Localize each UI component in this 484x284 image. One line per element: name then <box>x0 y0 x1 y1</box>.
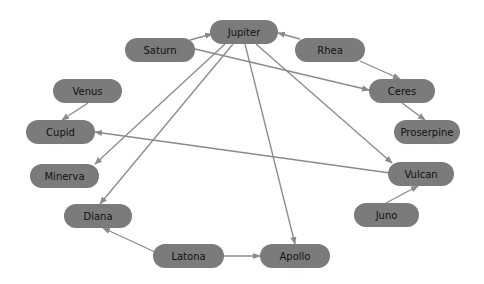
node-apollo: Apollo <box>260 244 330 268</box>
edge-venus-to-cupid <box>62 103 88 120</box>
edge-ceres-to-proserpine <box>402 103 425 120</box>
node-label: Ceres <box>388 86 416 97</box>
node-label: Jupiter <box>228 27 261 38</box>
edge-juno-to-vulcan <box>386 186 418 203</box>
node-label: Vulcan <box>404 169 437 180</box>
node-venus: Venus <box>53 79 122 103</box>
edge-latona-to-diana <box>103 228 155 252</box>
node-minerva: Minerva <box>30 164 99 188</box>
node-label: Diana <box>83 211 112 222</box>
node-label: Venus <box>72 86 102 97</box>
node-label: Saturn <box>143 45 176 56</box>
node-label: Minerva <box>44 171 84 182</box>
node-juno: Juno <box>354 203 419 227</box>
node-label: Apollo <box>280 251 311 262</box>
node-vulcan: Vulcan <box>388 162 454 186</box>
node-label: Juno <box>376 210 398 221</box>
edge-rhea-to-jupiter <box>278 33 300 39</box>
edge-jupiter-to-apollo <box>245 44 295 244</box>
node-jupiter: Jupiter <box>210 20 278 44</box>
node-rhea: Rhea <box>295 38 365 62</box>
diagram-canvas: JupiterSaturnRheaVenusCeresCupidProserpi… <box>0 0 484 284</box>
node-label: Rhea <box>317 45 343 56</box>
node-label: Proserpine <box>401 127 454 138</box>
edge-jupiter-to-diana <box>100 44 233 204</box>
node-label: Latona <box>171 251 205 262</box>
edge-vulcan-to-cupid <box>95 132 390 173</box>
node-proserpine: Proserpine <box>394 120 460 144</box>
node-saturn: Saturn <box>125 38 195 62</box>
edge-rhea-to-ceres <box>360 61 400 79</box>
node-diana: Diana <box>64 204 132 228</box>
node-cupid: Cupid <box>26 120 95 144</box>
node-ceres: Ceres <box>369 79 435 103</box>
node-label: Cupid <box>46 127 75 138</box>
edge-saturn-to-jupiter <box>190 34 212 40</box>
edge-jupiter-to-minerva <box>95 44 225 164</box>
node-latona: Latona <box>153 244 224 268</box>
